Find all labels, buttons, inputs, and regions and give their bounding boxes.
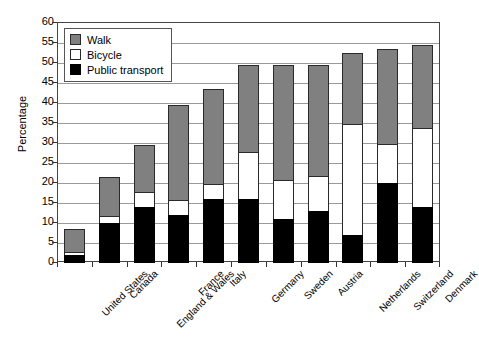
y-tick-label: 5 [30,236,54,247]
x-tick-mark [231,262,232,267]
bar-segment[interactable] [168,215,189,263]
bar-segment[interactable] [377,144,398,184]
bar-segment[interactable] [203,184,224,200]
stacked-bar[interactable] [64,229,85,262]
bar-segment[interactable] [168,200,189,216]
legend-item[interactable]: Public transport [70,62,163,77]
bar-segment[interactable] [99,177,120,217]
legend-swatch-bicycle-icon [70,49,81,60]
x-tick-mark [405,262,406,267]
y-tick-label: 10 [30,216,54,227]
y-tick-label: 30 [30,136,54,147]
x-axis-label: England & Wales [174,268,236,330]
bar-group [231,22,266,262]
bar-segment[interactable] [134,192,155,208]
stacked-bar[interactable] [412,45,433,262]
x-axis-label: Austria [335,268,365,298]
bar-segment[interactable] [412,207,433,263]
stacked-bar[interactable] [308,65,329,262]
legend-label: Public transport [87,64,163,76]
bar-segment[interactable] [168,105,189,201]
stacked-bar[interactable] [377,49,398,262]
y-tick-label: 40 [30,96,54,107]
bar-segment[interactable] [203,89,224,185]
legend-label: Bicycle [87,49,122,61]
x-tick-mark [439,262,440,267]
x-axis-label: Sweden [302,268,335,301]
y-tick-label: 50 [30,56,54,67]
stacked-bar[interactable] [134,145,155,262]
x-tick-mark [196,262,197,267]
bar-segment[interactable] [342,124,363,236]
bar-segment[interactable] [238,65,259,153]
bar-group [336,22,371,262]
x-tick-mark [266,262,267,267]
bar-segment[interactable] [238,199,259,263]
bar-segment[interactable] [273,219,294,263]
y-tick-label: 55 [30,36,54,47]
bar-segment[interactable] [273,65,294,181]
bar-segment[interactable] [238,152,259,200]
stacked-bar[interactable] [168,105,189,262]
legend-item[interactable]: Bicycle [70,47,163,62]
x-tick-mark [127,262,128,267]
bar-segment[interactable] [203,199,224,263]
legend-label: Walk [87,34,111,46]
stacked-bar[interactable] [342,53,363,262]
bar-segment[interactable] [412,45,433,129]
bar-segment[interactable] [342,235,363,263]
y-axis-ticks: 051015202530354045505560 [24,22,54,262]
bar-segment[interactable] [134,207,155,263]
bar-group [196,22,231,262]
x-tick-mark [92,262,93,267]
bar-segment[interactable] [308,176,329,212]
chart-legend: WalkBicyclePublic transport [64,28,172,82]
x-tick-mark [336,262,337,267]
bar-group [370,22,405,262]
bar-group [405,22,440,262]
bar-segment[interactable] [308,65,329,177]
bar-segment[interactable] [64,229,85,253]
y-tick-label: 60 [30,16,54,27]
bar-segment[interactable] [273,180,294,220]
y-tick-label: 20 [30,176,54,187]
bar-group [266,22,301,262]
y-tick-label: 45 [30,76,54,87]
bar-segment[interactable] [342,53,363,125]
legend-swatch-walk-icon [70,34,81,45]
x-axis-label: Germany [269,268,306,305]
legend-item[interactable]: Walk [70,32,163,47]
y-tick-label: 25 [30,156,54,167]
bar-segment[interactable] [99,223,120,263]
y-tick-label: 0 [30,256,54,267]
bar-segment[interactable] [377,49,398,145]
x-tick-mark [57,262,58,267]
stacked-bar[interactable] [203,89,224,262]
bar-group [301,22,336,262]
stacked-bar[interactable] [99,177,120,262]
bar-segment[interactable] [412,128,433,208]
stacked-bar[interactable] [273,65,294,262]
x-axis-labels: United StatesCanadaEngland & WalesFrance… [57,268,440,337]
x-tick-mark [370,262,371,267]
stacked-bar[interactable] [238,65,259,262]
bar-segment[interactable] [308,211,329,263]
bar-segment[interactable] [377,183,398,263]
y-tick-label: 35 [30,116,54,127]
legend-swatch-public-icon [70,64,81,75]
bar-segment[interactable] [134,145,155,193]
y-tick-label: 15 [30,196,54,207]
x-tick-mark [161,262,162,267]
x-tick-mark [301,262,302,267]
